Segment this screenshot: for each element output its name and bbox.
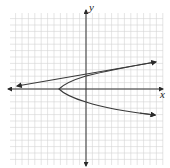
y-axis-label: y (88, 1, 94, 13)
coordinate-plane: x y (0, 0, 170, 168)
x-axis-label: x (159, 88, 165, 100)
